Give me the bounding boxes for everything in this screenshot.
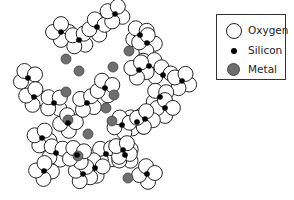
oxygen-atom [110, 0, 125, 14]
silicon-atom [137, 32, 143, 38]
silicon-atom [94, 24, 100, 30]
metal-ion [108, 62, 118, 72]
silicon-atom [157, 94, 163, 100]
oxygen-atom [37, 123, 52, 138]
silicon-atom [31, 94, 37, 100]
oxygen-atom [139, 104, 154, 119]
silicon-atom [179, 78, 185, 84]
silicon-atom [136, 67, 142, 73]
oxygen-atoms [14, 0, 197, 189]
silicon-atom [41, 168, 47, 174]
silicon-atom [53, 150, 59, 156]
legend-label: Silicon [248, 44, 282, 56]
metal-circle-icon [227, 63, 240, 76]
silicon-atom [102, 85, 108, 91]
silicon-atom [58, 29, 64, 35]
silicon-atom [25, 75, 31, 81]
silicon-atom [146, 63, 152, 69]
metal-ion [109, 90, 119, 100]
silicon-atom [119, 122, 125, 128]
silicon-atom [103, 151, 109, 157]
metal-ion [83, 129, 93, 139]
metal-ion [61, 87, 71, 97]
silicon-atom [120, 147, 126, 153]
legend-label: Oxygen [248, 24, 288, 36]
silicon-atom [160, 72, 166, 78]
oxygen-atom [134, 55, 149, 70]
oxygen-atom [28, 82, 43, 97]
silicon-atom [142, 116, 148, 122]
silicon-atom [74, 152, 80, 158]
metal-ion [107, 116, 117, 126]
metal-ion [61, 54, 71, 64]
silicon-atom [51, 100, 57, 106]
legend-item-silicon: Silicon [217, 41, 287, 61]
legend-item-oxygen: Oxygen [217, 21, 287, 41]
silicon-atom [112, 11, 118, 17]
silicon-atom [134, 119, 140, 125]
silicon-dot-icon [231, 48, 237, 54]
silicon-atom [65, 120, 71, 126]
legend: Oxygen Silicon Metal [216, 14, 286, 80]
silicon-atom [92, 165, 98, 171]
silicon-atom [162, 105, 168, 111]
legend-label: Metal [248, 63, 277, 75]
silicon-atom [144, 171, 150, 177]
silicon-atom [84, 100, 90, 106]
oxygen-circle-icon [226, 23, 242, 39]
silicon-atom [122, 152, 128, 158]
oxygen-atom [95, 159, 110, 174]
legend-item-metal: Metal [217, 60, 287, 80]
metal-ion [74, 66, 84, 76]
silicon-atom [76, 37, 82, 43]
silicon-atom [80, 171, 86, 177]
silicon-atom [144, 40, 150, 46]
silicon-atom [39, 135, 45, 141]
metal-ion [124, 46, 134, 56]
metal-ion [101, 103, 111, 113]
metal-ion [123, 173, 133, 183]
